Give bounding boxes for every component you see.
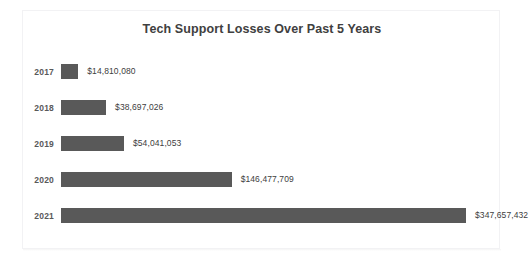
bar-chart-plot-area: 2017$14,810,0802018$38,697,0262019$54,04… [23,47,501,243]
bar-row: 2017$14,810,080 [23,54,501,90]
bar-value-label-2019: $54,041,053 [133,138,181,148]
category-label-2019: 2019 [23,139,54,149]
category-label-2021: 2021 [23,211,54,221]
bar-value-label-2020: $146,477,709 [241,174,294,184]
bar-value-label-2017: $14,810,080 [87,66,135,76]
category-label-2018: 2018 [23,103,54,113]
bar-track: $14,810,080 [61,64,501,79]
clipped-top-strip: . . . . . . [0,0,532,6]
chart-card: Tech Support Losses Over Past 5 Years 20… [22,10,500,249]
chart-title: Tech Support Losses Over Past 5 Years [23,22,501,36]
bar-track: $146,477,709 [61,172,501,187]
bar-track: $38,697,026 [61,100,501,115]
bar-row: 2019$54,041,053 [23,126,501,162]
card-shadow [23,249,501,251]
bar-2017 [61,64,78,79]
category-label-2020: 2020 [23,175,54,185]
bar-row: 2021$347,657,432 [23,198,501,234]
bar-2021 [61,208,466,223]
bar-row: 2018$38,697,026 [23,90,501,126]
category-label-2017: 2017 [23,67,54,77]
bar-value-label-2018: $38,697,026 [115,102,163,112]
bar-2019 [61,136,124,151]
bar-2020 [61,172,232,187]
bar-2018 [61,100,106,115]
bar-value-label-2021: $347,657,432 [475,210,528,220]
bar-track: $347,657,432 [61,208,501,223]
bar-row: 2020$146,477,709 [23,162,501,198]
clipped-top-text: . . . . . . [0,0,24,2]
bar-track: $54,041,053 [61,136,501,151]
